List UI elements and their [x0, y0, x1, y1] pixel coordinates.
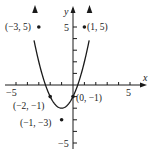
point-m1-m3: [60, 118, 64, 122]
y-axis-label: y: [63, 6, 69, 17]
x-tick-label-neg5: −5: [6, 87, 17, 98]
point-label-1-5: (1, 5): [87, 22, 108, 33]
x-axis-arrow-icon: [140, 83, 147, 88]
point-m2-m1: [48, 95, 52, 99]
point-label-0-m1: (0, −1): [76, 93, 102, 104]
point-m3-5: [37, 25, 41, 29]
y-tick-label-5: 5: [64, 22, 69, 33]
point-label-m3-5: (−3, 5): [5, 22, 31, 33]
point-0-m1: [71, 95, 75, 99]
x-tick-label-5: 5: [126, 87, 131, 98]
point-label-m2-m1: (−2, −1): [13, 101, 44, 112]
point-1-5: [83, 25, 87, 29]
curve-right-arrow-icon: [87, 5, 93, 13]
parabola-graph: x y −5 5 5 −5 (−3, 5) (1, 5) (−2, −1) (0…: [0, 0, 149, 151]
y-axis-arrow-icon: [71, 6, 76, 13]
curve-left-arrow-icon: [32, 5, 38, 13]
y-axis: [73, 8, 77, 149]
x-axis-label: x: [142, 72, 148, 83]
x-axis: [5, 82, 143, 85]
point-label-m1-m3: (−1, −3): [20, 118, 51, 129]
y-tick-label-neg5: −5: [58, 138, 69, 149]
